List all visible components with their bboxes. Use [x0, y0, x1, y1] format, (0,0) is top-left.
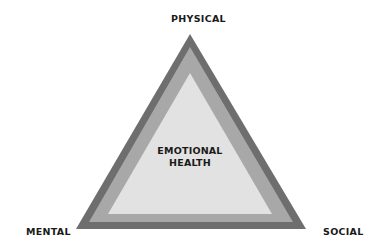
center-label: EMOTIONAL HEALTH — [140, 145, 240, 169]
health-triangle — [0, 0, 378, 252]
vertex-label-mental: MENTAL — [26, 226, 71, 237]
center-label-line2: HEALTH — [140, 157, 240, 169]
center-label-line1: EMOTIONAL — [140, 145, 240, 157]
vertex-label-social: SOCIAL — [323, 226, 364, 237]
vertex-label-physical: PHYSICAL — [171, 13, 226, 24]
